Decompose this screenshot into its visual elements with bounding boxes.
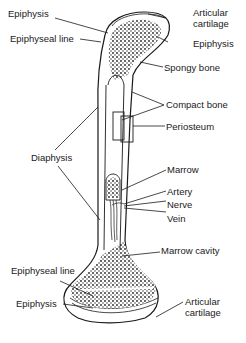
label-artery: Artery	[167, 186, 192, 197]
label-articular-cartilage-top: Articular cartilage	[193, 7, 229, 29]
label-spongy-bone: Spongy bone	[164, 62, 220, 73]
label-compact-bone: Compact bone	[166, 99, 228, 110]
label-vein: Vein	[167, 213, 186, 224]
label-marrow-cavity: Marrow cavity	[161, 245, 220, 256]
label-epiphysis-bottom: Epiphysis	[16, 298, 57, 309]
label-periosteum: Periosteum	[166, 121, 214, 132]
label-epiphysis-top: Epiphysis	[8, 8, 49, 19]
long-bone-illustration	[0, 0, 246, 343]
label-nerve: Nerve	[167, 199, 192, 210]
label-articular-cartilage-bottom: Articular cartilage	[185, 296, 221, 318]
label-epiphyseal-line-bottom: Epiphyseal line	[11, 265, 75, 276]
label-diaphysis: Diaphysis	[31, 152, 72, 163]
label-epiphyseal-line-top: Epiphyseal line	[10, 33, 74, 44]
label-epiphysis-top-right: Epiphysis	[193, 38, 234, 49]
label-marrow: Marrow	[167, 164, 199, 175]
